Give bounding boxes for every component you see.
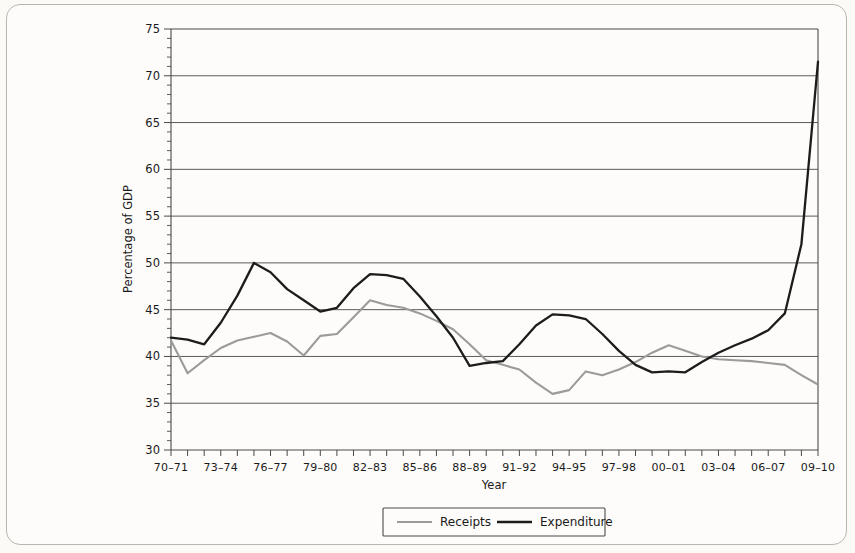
x-axis-title: Year	[481, 478, 507, 492]
x-tick-label: 09–10	[801, 461, 836, 474]
series-line-receipts	[171, 300, 818, 394]
x-tick-label: 70–71	[154, 461, 189, 474]
y-tick-label: 75	[145, 22, 160, 36]
x-tick-label: 97–98	[602, 461, 637, 474]
x-tick-label: 85–86	[403, 461, 438, 474]
y-axis-ticks: 30354045505560657075	[145, 22, 171, 457]
y-tick-label: 45	[145, 303, 160, 317]
y-tick-label: 70	[145, 69, 160, 83]
x-tick-label: 03–04	[701, 461, 736, 474]
data-series	[171, 62, 818, 394]
x-tick-label: 76–77	[253, 461, 288, 474]
y-tick-label: 35	[145, 396, 160, 410]
x-tick-label: 88–89	[452, 461, 487, 474]
x-tick-label: 91–92	[502, 461, 537, 474]
x-tick-label: 94–95	[552, 461, 587, 474]
scanned-page: 30354045505560657075 70–7173–7476–7779–8…	[0, 0, 855, 553]
grid-lines	[171, 76, 818, 403]
legend-label-receipts: Receipts	[440, 515, 491, 529]
y-tick-label: 60	[145, 162, 160, 176]
series-line-expenditure	[171, 62, 818, 373]
y-tick-label: 65	[145, 116, 160, 130]
legend-label-expenditure: Expenditure	[540, 515, 613, 529]
y-tick-label: 55	[145, 209, 160, 223]
y-tick-label: 40	[145, 349, 160, 363]
y-tick-label: 50	[145, 256, 160, 270]
x-tick-label: 06–07	[751, 461, 786, 474]
x-tick-label: 73–74	[204, 461, 239, 474]
x-tick-label: 79–80	[303, 461, 338, 474]
y-tick-label: 30	[145, 443, 160, 457]
x-axis-ticks: 70–7173–7476–7779–8082–8385–8688–8991–92…	[154, 450, 836, 474]
line-chart-figure: 30354045505560657075 70–7173–7476–7779–8…	[0, 0, 855, 553]
y-axis-title: Percentage of GDP	[121, 185, 135, 293]
x-tick-label: 00–01	[651, 461, 686, 474]
x-tick-label: 82–83	[353, 461, 388, 474]
